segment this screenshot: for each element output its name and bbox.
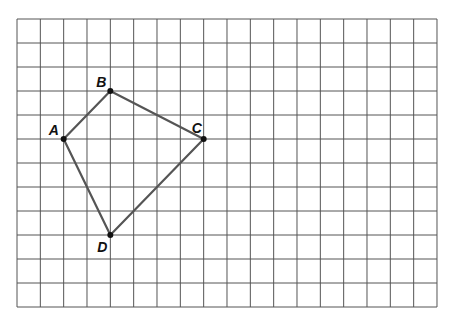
point-label-d: D [97, 239, 107, 255]
point-label-b: B [96, 74, 106, 90]
point-a [61, 136, 67, 142]
square-grid [17, 19, 437, 307]
grid-canvas: ABCD [0, 0, 453, 318]
point-d [107, 232, 113, 238]
point-b [107, 88, 113, 94]
point-label-c: C [192, 120, 203, 136]
grid-diagram: ABCD [0, 0, 453, 318]
point-label-a: A [48, 122, 59, 138]
vertices: ABCD [48, 74, 207, 255]
point-c [201, 136, 207, 142]
